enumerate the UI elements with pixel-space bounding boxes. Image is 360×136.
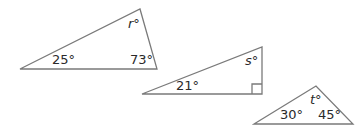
- triangles-diagram: 25° 73° r° 21° s° 30° 45° t°: [0, 0, 360, 136]
- angle-s-label: s°: [245, 53, 258, 68]
- right-angle-marker-icon: [252, 84, 262, 94]
- triangle-2: 21° s°: [142, 47, 262, 94]
- triangle-3: 30° 45° t°: [254, 86, 353, 124]
- degree-symbol: °: [133, 16, 140, 31]
- triangle-1: 25° 73° r°: [20, 9, 157, 69]
- angle-30-label: 30°: [280, 107, 303, 122]
- angle-r-label: r°: [128, 16, 140, 31]
- angle-t-label: t°: [310, 92, 322, 107]
- degree-symbol: °: [315, 92, 322, 107]
- angle-21-label: 21°: [176, 78, 199, 93]
- angle-25-label: 25°: [52, 52, 75, 67]
- angle-73-label: 73°: [130, 52, 153, 67]
- degree-symbol: °: [252, 53, 259, 68]
- angle-45-label: 45°: [318, 107, 341, 122]
- triangle-2-outline: [142, 47, 262, 94]
